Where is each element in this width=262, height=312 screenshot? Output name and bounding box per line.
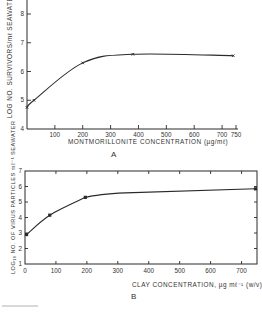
chart-a-y-label: LOG NO. SURVIVORS/mℓ SEAWATER [6,0,13,118]
y-tick-label: 5 [18,198,22,205]
x-tick-label: 700 [236,267,247,274]
y-tick-label: 7 [18,167,22,174]
y-tick-label: 4 [18,214,22,221]
data-point-marker [48,214,51,217]
chart-b-y-label: LOG₁₀ NO. OF VIRUS PARTICLES mℓ⁻¹ SEAWAT… [10,120,16,274]
chart-b-frame [25,171,257,264]
x-tick-label: 0 [23,267,27,274]
chart-b: 01002003004005006007001234567 CLAY CONCE… [10,120,262,301]
x-tick-label: 300 [105,131,116,138]
chart-b-markers [25,187,257,236]
y-tick-label: 1 [18,260,22,267]
y-tick-label: 8 [20,10,24,17]
x-tick-label: 200 [77,131,88,138]
chart-b-curve [27,189,256,235]
panel-label-b: B [131,292,136,301]
x-tick-label: 700 [217,131,228,138]
data-point-marker [84,196,87,199]
x-tick-label: 400 [133,131,144,138]
chart-a-x-label: MONTMORILLONITE CONCENTRATION (µg/mℓ) [68,138,228,146]
y-tick-label: 5 [20,96,24,103]
panel-label-a: A [111,150,117,159]
x-tick-label: 100 [51,267,62,274]
chart-b-x-label: CLAY CONCENTRATION, µg mℓ⁻¹ (w/v) [132,281,262,289]
y-tick-label: 6 [20,68,24,75]
data-point-marker [254,187,257,190]
y-tick-label: 2 [18,245,22,252]
caption-fragment [2,305,38,307]
y-tick-label: 6 [18,183,22,190]
chart-a: 10020030040050060070075045678 MONTMORILL… [6,0,242,159]
x-tick-label: 400 [143,267,154,274]
x-tick-label: 500 [174,267,185,274]
x-tick-label: 600 [189,131,200,138]
x-tick-label: 600 [205,267,216,274]
y-tick-label: 3 [18,229,22,236]
chart-b-ticks: 01002003004005006007001234567 [18,167,257,274]
y-tick-label: 7 [20,39,24,46]
chart-a-ticks: 10020030040050060070075045678 [20,10,241,138]
x-tick-label: 200 [82,267,93,274]
data-point-marker [25,233,28,236]
x-tick-label: 100 [50,131,61,138]
x-tick-label: 300 [113,267,124,274]
chart-a-curve [27,54,233,108]
y-tick-label: 4 [20,125,24,132]
figure: 10020030040050060070075045678 MONTMORILL… [0,0,262,312]
x-tick-label: 750 [231,131,242,138]
x-tick-label: 500 [161,131,172,138]
